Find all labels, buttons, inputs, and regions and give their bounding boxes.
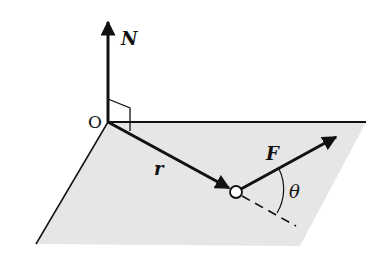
normal-label: N: [120, 28, 139, 49]
force-label: F: [265, 143, 280, 164]
position-label: r: [154, 158, 165, 179]
torque-diagram: N O r F θ: [0, 0, 379, 261]
application-point-icon: [230, 186, 242, 198]
angle-label: θ: [289, 181, 300, 202]
plane-surface: [36, 122, 366, 246]
origin-label: O: [88, 112, 102, 132]
